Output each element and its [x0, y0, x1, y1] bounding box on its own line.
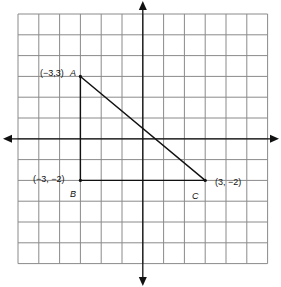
vertex-a-coordinate-label: (−3,3) [40, 68, 64, 78]
vertex-c-coordinate-label: (3, −2) [215, 177, 241, 187]
vertex-a-point [79, 75, 82, 78]
y-axis-down-arrow-icon [139, 277, 147, 286]
x-axis-left-arrow-icon [3, 135, 12, 143]
vertex-b-label: B [70, 189, 76, 199]
vertex-b-coordinate-label: (−3, −2) [33, 174, 65, 184]
x-axis-right-arrow-icon [270, 135, 279, 143]
vertex-c-label: C [192, 191, 199, 201]
grid-and-axes [0, 0, 281, 287]
y-axis-up-arrow-icon [139, 1, 147, 10]
coordinate-plane: (−3,3) A (−3, −2) B (3, −2) C [0, 0, 281, 287]
vertex-a-label: A [70, 68, 76, 78]
vertex-c-point [204, 179, 207, 182]
vertex-b-point [79, 179, 82, 182]
